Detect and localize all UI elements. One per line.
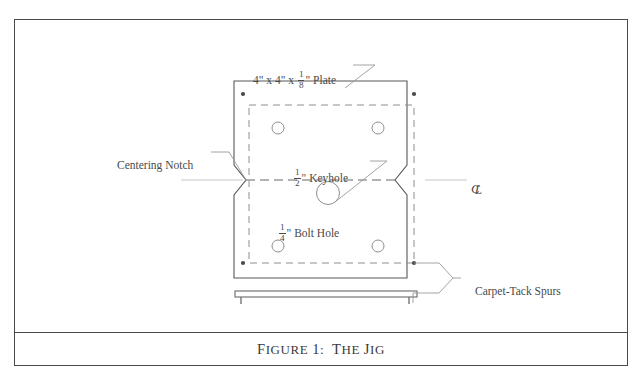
caption-smallcaps: IGURE (266, 342, 309, 357)
figure-page: 4" x 4" x 18" Plate Centering Notch 12" … (0, 0, 642, 376)
label-bolt-hole-suffix: " Bolt Hole (287, 227, 340, 239)
leader-carpet-tack-spurs (413, 263, 453, 303)
leader-plate (345, 65, 375, 88)
label-plate: 4" x 4" x 18" Plate (253, 70, 336, 90)
caption-initial: 1 (312, 341, 320, 357)
label-keyhole-suffix: " Keyhole (302, 172, 349, 184)
label-centering-notch: Centering Notch (117, 160, 193, 172)
label-centerline-symbol: CL (471, 182, 487, 195)
caption-smallcaps: IG (370, 342, 385, 357)
spur-dot-top-left (241, 92, 245, 96)
fraction-denominator: 8 (298, 81, 305, 91)
figure-frame: 4" x 4" x 18" Plate Centering Notch 12" … (14, 19, 628, 366)
fraction-denominator: 4 (279, 234, 286, 244)
label-plate-suffix: " Plate (305, 74, 336, 86)
fraction-one-quarter: 14 (279, 223, 286, 243)
centerline-glyph: CL (471, 182, 487, 195)
fraction-numerator: 1 (298, 70, 305, 81)
label-keyhole: 12" Keyhole (293, 168, 348, 188)
leader-centering-notch (211, 152, 246, 180)
caption-smallcaps: HE (341, 342, 360, 357)
label-bolt-hole: 14" Bolt Hole (278, 223, 339, 243)
label-carpet-tack-spurs: Carpet-Tack Spurs (475, 286, 561, 298)
caption-smallcaps: : (320, 342, 324, 357)
bolt-hole-bottom-right (372, 240, 384, 252)
spur-dot-bottom-left (241, 261, 245, 265)
bolt-hole-top-left (272, 122, 284, 134)
spur-dot-top-right (412, 92, 416, 96)
fraction-one-half: 12 (294, 168, 301, 188)
label-plate-prefix: 4" x 4" x (253, 74, 297, 86)
caption-initial: F (257, 341, 266, 357)
side-view-plate-bar (235, 291, 417, 297)
fraction-numerator: 1 (294, 168, 301, 179)
fraction-denominator: 2 (294, 179, 301, 189)
fraction-numerator: 1 (279, 223, 286, 234)
figure-caption-text: FIGURE 1: THE JIG (257, 341, 385, 358)
figure-caption: FIGURE 1: THE JIG (15, 333, 627, 366)
bolt-hole-top-right (372, 122, 384, 134)
fraction-one-eighth: 18 (298, 70, 305, 90)
centerline-l: L (475, 182, 482, 197)
